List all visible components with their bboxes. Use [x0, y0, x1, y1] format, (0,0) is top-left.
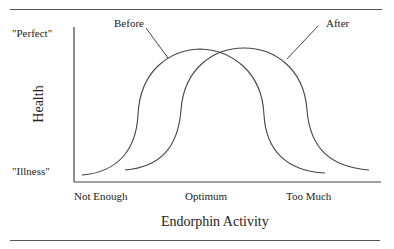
x-tick-not-enough: Not Enough	[74, 190, 127, 202]
x-axis-label: Endorphin Activity	[161, 214, 269, 230]
x-tick-optimum: Optimum	[185, 190, 227, 202]
after-leader-line	[287, 26, 318, 59]
before-curve	[82, 49, 325, 175]
before-label: Before	[114, 17, 144, 29]
after-label: After	[326, 17, 349, 29]
y-axis-label: Health	[31, 85, 47, 122]
y-tick-bottom: "Illness"	[12, 165, 50, 177]
after-curve	[125, 48, 369, 170]
x-tick-too-much: Too Much	[286, 190, 331, 202]
y-tick-top: "Perfect"	[12, 27, 52, 39]
before-leader-line	[146, 28, 168, 58]
diagram-canvas	[0, 0, 394, 249]
